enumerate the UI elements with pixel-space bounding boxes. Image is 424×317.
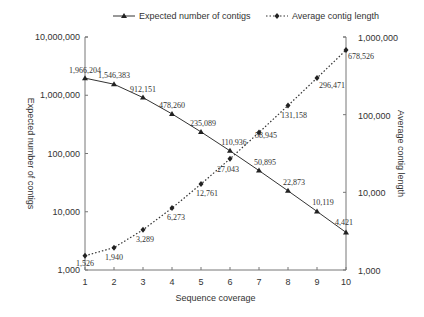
length-data-label: 58,945 xyxy=(255,131,277,140)
contigs-data-label: 1,546,383 xyxy=(98,71,130,80)
contigs-data-label: 110,936 xyxy=(221,138,247,147)
length-data-label: 12,761 xyxy=(196,189,218,198)
length-data-label: 1,526 xyxy=(76,259,94,268)
x-tick-label: 10 xyxy=(341,277,351,287)
legend-length-label: Average contig length xyxy=(292,11,379,21)
left-y-axis-title: Expected number of contigs xyxy=(26,98,36,210)
length-data-label: 6,273 xyxy=(167,213,185,222)
length-data-label: 296,471 xyxy=(319,81,345,90)
x-tick-label: 5 xyxy=(198,277,203,287)
left-y-tick-label: 10,000 xyxy=(52,207,80,217)
contigs-data-label: 22,873 xyxy=(283,178,305,187)
length-data-label: 678,526 xyxy=(348,52,374,61)
left-y-tick-label: 10,000,000 xyxy=(35,32,80,42)
length-data-label: 1,940 xyxy=(105,253,123,262)
diamond-marker xyxy=(141,227,146,233)
contigs-data-label: 1,966,204 xyxy=(69,66,101,75)
legend-contigs-label: Expected number of contigs xyxy=(139,11,251,21)
x-tick-label: 6 xyxy=(227,277,232,287)
triangle-marker xyxy=(169,111,175,116)
triangle-marker xyxy=(343,229,349,234)
contigs-data-label: 10,119 xyxy=(312,198,334,207)
triangle-marker xyxy=(314,208,320,213)
diamond-marker xyxy=(170,205,175,211)
contigs-data-label: 4,421 xyxy=(335,218,353,227)
right-y-tick-label: 1,000,000 xyxy=(358,33,398,43)
diamond-marker xyxy=(112,245,117,251)
x-tick-label: 1 xyxy=(82,277,87,287)
contigs-data-label: 235,089 xyxy=(190,119,216,128)
triangle-marker xyxy=(82,75,88,80)
series-length-line xyxy=(85,50,346,256)
x-tick-label: 2 xyxy=(111,277,116,287)
right-y-tick-label: 10,000 xyxy=(358,188,386,198)
triangle-marker xyxy=(198,129,204,134)
x-tick-label: 9 xyxy=(314,277,319,287)
x-tick-label: 4 xyxy=(169,277,174,287)
triangle-marker xyxy=(256,168,262,173)
x-tick-label: 7 xyxy=(256,277,261,287)
right-y-axis-title: Average contig length xyxy=(396,110,406,197)
triangle-marker xyxy=(227,148,233,153)
contigs-data-label: 912,151 xyxy=(130,85,156,94)
series-contigs-line xyxy=(85,78,346,232)
contigs-data-label: 50,895 xyxy=(254,158,276,167)
left-y-tick-label: 100,000 xyxy=(47,149,80,159)
length-data-label: 27,043 xyxy=(217,165,239,174)
x-axis-title: Sequence coverage xyxy=(175,293,255,303)
dual-axis-line-chart: Expected number of contigsAverage contig… xyxy=(0,0,424,317)
contigs-data-label: 478,260 xyxy=(159,101,185,110)
legend: Expected number of contigsAverage contig… xyxy=(113,11,379,21)
right-y-tick-label: 1,000 xyxy=(358,266,381,276)
right-y-tick-label: 100,000 xyxy=(358,111,391,121)
left-y-tick-label: 1,000,000 xyxy=(40,90,80,100)
length-data-label: 131,158 xyxy=(281,111,307,120)
length-data-label: 3,289 xyxy=(136,235,154,244)
x-tick-label: 8 xyxy=(285,277,290,287)
legend-diamond-icon xyxy=(275,13,280,19)
triangle-marker xyxy=(285,188,291,193)
x-tick-label: 3 xyxy=(140,277,145,287)
